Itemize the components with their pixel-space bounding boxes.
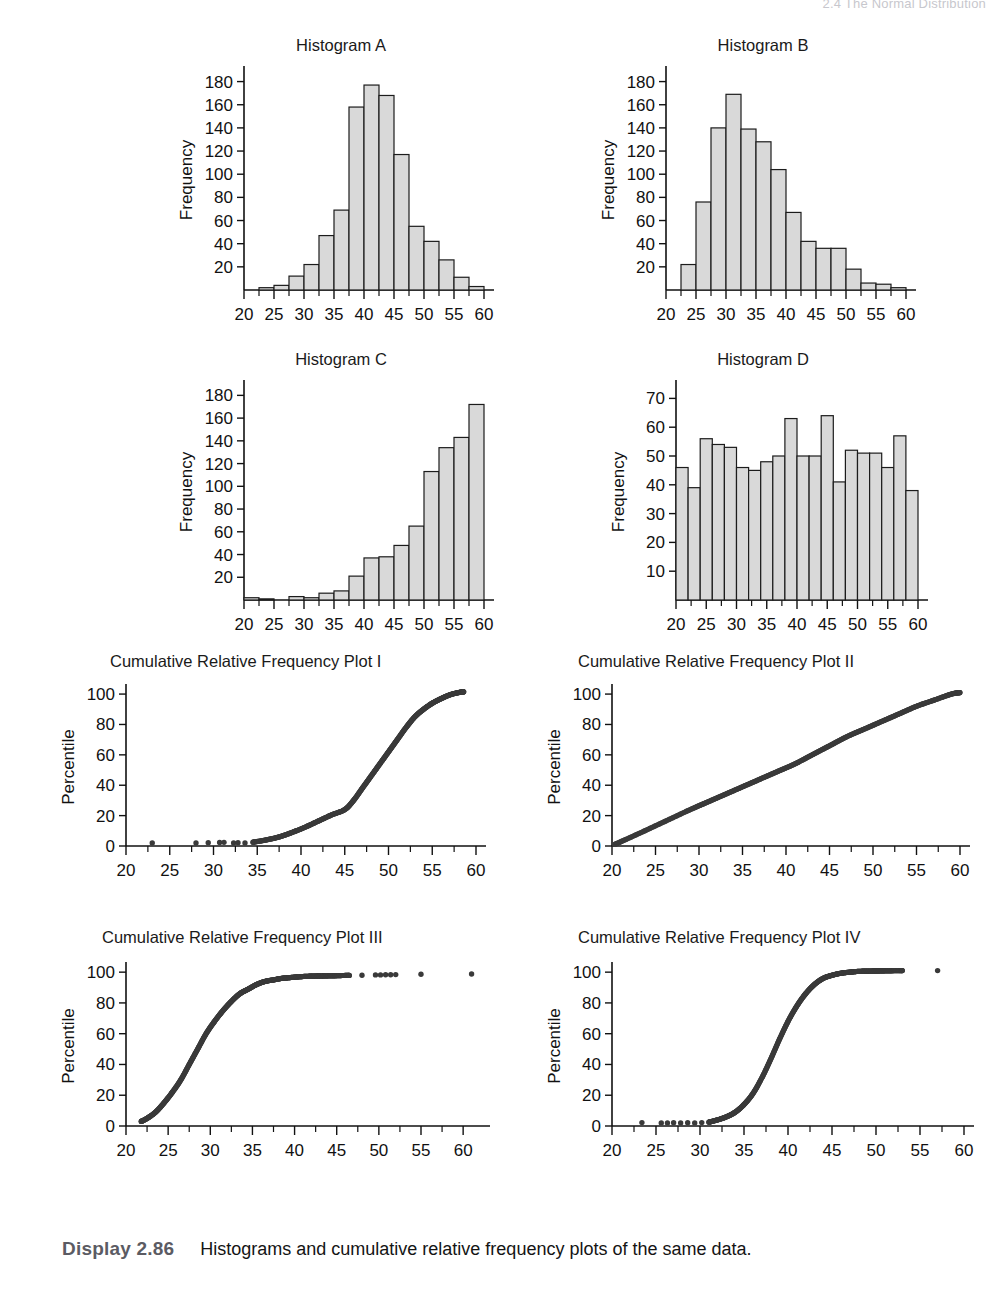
x-tick-label: 60 [454, 1141, 473, 1160]
histogram-bar [349, 107, 364, 290]
x-tick-label: 20 [117, 1141, 136, 1160]
bar-series [681, 94, 906, 290]
figure-page: 2.4 The Normal Distribution Histogram A … [0, 0, 1008, 1294]
x-tick-label: 35 [735, 1141, 754, 1160]
figure-caption: Display 2.86Histograms and cumulative re… [62, 1238, 962, 1268]
plot-hist-c: 2040608010012014016018020253035404550556… [166, 376, 516, 641]
data-point-outlier [659, 1120, 664, 1125]
data-point [957, 690, 962, 695]
point-series [139, 971, 475, 1124]
data-point [900, 968, 905, 973]
y-tick-label: 140 [205, 432, 233, 451]
data-point-outlier [699, 1120, 704, 1125]
data-point-outlier [388, 972, 393, 977]
histogram-bar [724, 447, 736, 600]
x-tick-label: 30 [201, 1141, 220, 1160]
x-tick-label: 55 [445, 305, 464, 324]
x-tick-label: 45 [823, 1141, 842, 1160]
x-tick-label: 60 [475, 615, 494, 634]
histogram-bar [424, 472, 439, 600]
caption-display-label: Display 2.86 [62, 1238, 174, 1259]
histogram-bar [861, 283, 876, 290]
x-tick-label: 40 [777, 305, 796, 324]
bar-series [259, 85, 484, 290]
histogram-bar [424, 241, 439, 290]
y-tick-label: 140 [627, 119, 655, 138]
x-tick-label: 45 [820, 861, 839, 880]
histogram-bar [756, 142, 771, 290]
histogram-bar [439, 448, 454, 600]
x-tick-label: 20 [667, 615, 686, 634]
x-tick-label: 30 [690, 861, 709, 880]
y-tick-label: 180 [205, 73, 233, 92]
x-tick-label: 35 [747, 305, 766, 324]
x-tick-label: 50 [867, 1141, 886, 1160]
histogram-bar [741, 129, 756, 290]
histogram-bar [319, 593, 334, 600]
histogram-bar [906, 491, 918, 600]
x-tick-label: 55 [445, 615, 464, 634]
panel-title-hist-b: Histogram B [588, 36, 938, 55]
histogram-bar [439, 260, 454, 290]
data-point-outlier [373, 972, 378, 977]
histogram-bar [761, 462, 773, 600]
histogram-bar [711, 128, 726, 290]
x-tick-label: 50 [415, 305, 434, 324]
chart-crf-ii: 020406080100202530354045505560Percentile [520, 678, 990, 883]
data-point-outlier [418, 972, 423, 977]
panel-crf-ii: Cumulative Relative Frequency Plot II 02… [520, 652, 990, 892]
y-tick-label: 180 [205, 386, 233, 405]
histogram-bar [797, 456, 809, 600]
x-tick-label: 50 [369, 1141, 388, 1160]
histogram-bar [319, 236, 334, 290]
y-axis-title: Percentile [59, 1008, 78, 1084]
y-tick-label: 40 [582, 776, 601, 795]
x-tick-label: 25 [160, 861, 179, 880]
x-tick-label: 45 [385, 615, 404, 634]
x-tick-label: 35 [325, 615, 344, 634]
plot-crf-i: 020406080100202530354045505560Percentile [44, 678, 504, 883]
histogram-bar [749, 470, 761, 600]
histogram-bar [394, 545, 409, 600]
data-point-outlier [935, 968, 940, 973]
y-axis-title: Percentile [59, 729, 78, 805]
y-tick-label: 10 [646, 562, 665, 581]
histogram-bar [274, 285, 289, 290]
data-point-outlier [678, 1120, 683, 1125]
bar-series [676, 416, 918, 600]
data-point-outlier [206, 840, 211, 845]
y-tick-label: 100 [573, 963, 601, 982]
data-point-outlier [469, 971, 474, 976]
x-tick-label: 60 [909, 615, 928, 634]
x-tick-label: 50 [837, 305, 856, 324]
histogram-bar [244, 598, 259, 600]
data-point [461, 689, 466, 694]
y-tick-label: 80 [96, 994, 115, 1013]
y-tick-label: 20 [582, 1086, 601, 1105]
x-tick-label: 20 [235, 305, 254, 324]
y-tick-label: 160 [205, 96, 233, 115]
x-tick-label: 55 [878, 615, 897, 634]
histogram-bar [688, 488, 700, 600]
x-tick-label: 55 [423, 861, 442, 880]
panel-hist-c: Histogram C 2040608010012014016018020253… [166, 350, 516, 640]
data-point-outlier [193, 840, 198, 845]
histogram-bar [845, 450, 857, 600]
y-tick-label: 20 [636, 258, 655, 277]
histogram-bar [304, 598, 319, 600]
y-axis-title: Percentile [545, 729, 564, 805]
y-axis-title: Frequency [177, 451, 196, 532]
y-axis-title: Frequency [177, 139, 196, 220]
x-tick-label: 60 [897, 305, 916, 324]
data-point-outlier [692, 1120, 697, 1125]
x-tick-label: 35 [243, 1141, 262, 1160]
histogram-bar [379, 95, 394, 290]
y-tick-label: 40 [96, 1055, 115, 1074]
panel-hist-b: Histogram B 2040608010012014016018020253… [588, 36, 938, 336]
x-tick-label: 30 [295, 615, 314, 634]
y-tick-label: 100 [87, 963, 115, 982]
y-axis-title: Frequency [599, 139, 618, 220]
x-tick-label: 35 [757, 615, 776, 634]
x-tick-label: 25 [647, 1141, 666, 1160]
histogram-bar [364, 558, 379, 600]
